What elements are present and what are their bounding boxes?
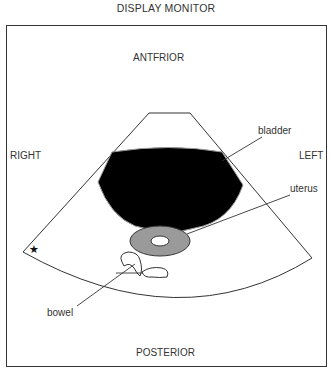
uterus-label: uterus — [290, 183, 318, 194]
left-label: LEFT — [299, 150, 323, 161]
posterior-label: POSTERIOR — [136, 347, 195, 358]
right-label: RIGHT — [10, 150, 41, 161]
bladder-pointer-line — [222, 137, 262, 161]
uterus-cavity — [151, 236, 169, 246]
anterior-label: ANTFRIOR — [133, 52, 184, 63]
bowel-label: bowel — [47, 307, 73, 318]
bladder-label: bladder — [258, 125, 291, 136]
star-marker-icon: ★ — [29, 243, 39, 256]
